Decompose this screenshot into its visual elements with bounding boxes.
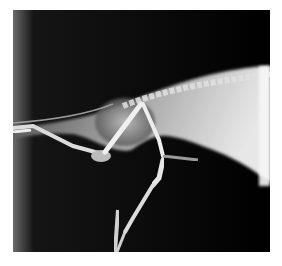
- radiograph-graphic: [13, 10, 270, 252]
- image-caption: [0, 254, 282, 266]
- xray-image: [13, 10, 270, 252]
